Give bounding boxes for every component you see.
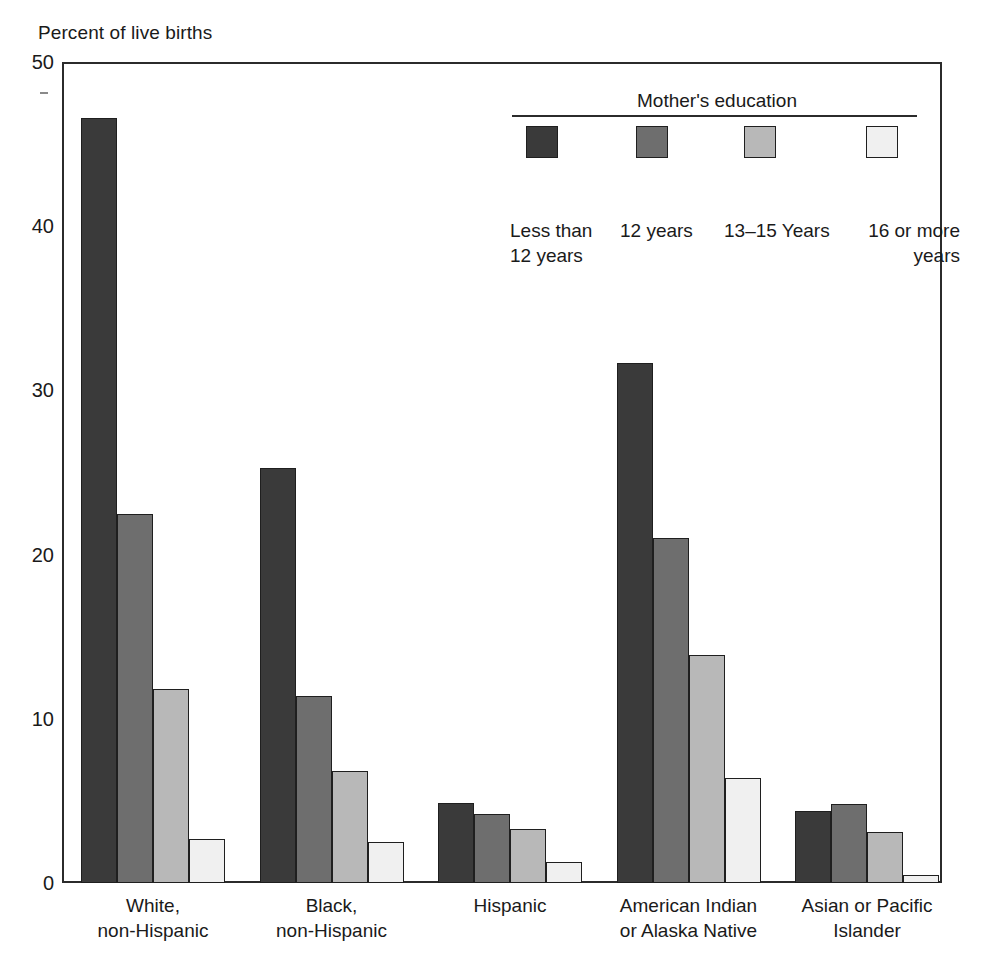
legend-label-line-2: years [842, 243, 960, 268]
y-axis-title: Percent of live births [38, 22, 212, 44]
chart-legend: Mother's education Less than12 years12 y… [512, 90, 922, 160]
legend-swatch [636, 126, 668, 158]
bar [81, 118, 117, 883]
bar [831, 804, 867, 883]
chart-root: Percent of live births 01020304050 Mothe… [0, 0, 997, 965]
legend-swatch [526, 126, 558, 158]
bar [153, 689, 189, 883]
bar [260, 468, 296, 883]
x-label-line-2: non-Hispanic [222, 918, 442, 943]
legend-label-line-1: 12 years [620, 218, 728, 243]
bar [725, 778, 761, 883]
y-axis-stub-tick [40, 92, 48, 94]
y-tick-label: 40 [8, 215, 54, 238]
x-label-line-2: Islander [757, 918, 977, 943]
bar [332, 771, 368, 883]
bar [296, 696, 332, 883]
y-tick-label: 20 [8, 543, 54, 566]
bar [653, 538, 689, 883]
legend-label: 16 or moreyears [842, 218, 960, 268]
bar [189, 839, 225, 883]
bar [795, 811, 831, 883]
legend-label-line-1: Less than [510, 218, 628, 243]
x-axis-category-label: Asian or PacificIslander [757, 893, 977, 943]
legend-label-line-1: 13–15 Years [724, 218, 852, 243]
bar [438, 803, 474, 883]
bar [117, 514, 153, 883]
y-tick-label: 10 [8, 707, 54, 730]
x-label-line-1: Asian or Pacific [757, 893, 977, 918]
legend-label-line-1: 16 or more [842, 218, 960, 243]
legend-label: 12 years [620, 218, 728, 243]
bar [368, 842, 404, 883]
legend-swatch [744, 126, 776, 158]
legend-swatch [866, 126, 898, 158]
legend-label: 13–15 Years [724, 218, 852, 243]
plot-area [62, 62, 942, 883]
y-tick-label: 50 [8, 51, 54, 74]
y-tick-label: 0 [8, 872, 54, 895]
legend-title: Mother's education [512, 90, 922, 112]
y-axis: 01020304050 [0, 0, 54, 945]
bar [510, 829, 546, 883]
bar [867, 832, 903, 883]
bar [474, 814, 510, 883]
y-tick-label: 30 [8, 379, 54, 402]
legend-label: Less than12 years [510, 218, 628, 268]
bar [617, 363, 653, 884]
legend-swatch-row [512, 126, 922, 160]
bar [903, 875, 939, 883]
bar [689, 655, 725, 883]
legend-label-line-2: 12 years [510, 243, 628, 268]
bar [546, 862, 582, 883]
legend-rule [512, 115, 917, 117]
